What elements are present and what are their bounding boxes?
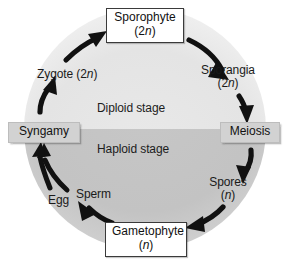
stage-label-haploid-text: Haploid stage: [97, 142, 169, 156]
life-cycle-diagram: Sporophyte (2n) Sporangia (2n) Meiosis S…: [0, 0, 291, 265]
node-zygote-ploidy: (2n): [73, 67, 97, 81]
node-meiosis[interactable]: Meiosis: [220, 122, 280, 143]
node-sperm-name: Sperm: [76, 187, 111, 201]
node-egg: Egg: [48, 194, 69, 207]
stage-label-diploid: Diploid stage: [97, 102, 165, 115]
node-gametophyte-name: Gametophyte: [112, 225, 180, 239]
node-sporangia-name: Sporangia: [195, 64, 261, 77]
node-meiosis-name: Meiosis: [230, 124, 271, 138]
stage-label-haploid: Haploid stage: [97, 143, 169, 156]
node-sporophyte-name: Sporophyte: [113, 11, 177, 25]
node-spores: Spores (n): [203, 176, 253, 203]
node-syngamy[interactable]: Syngamy: [8, 122, 80, 143]
node-sporangia: Sporangia (2n): [195, 64, 261, 91]
node-sporophyte-ploidy: (2n): [113, 25, 177, 39]
stage-label-diploid-text: Diploid stage: [97, 101, 165, 115]
node-gametophyte-ploidy: (n): [112, 239, 180, 253]
node-syngamy-name: Syngamy: [19, 124, 69, 138]
node-spores-ploidy: (n): [203, 189, 253, 202]
node-sporophyte[interactable]: Sporophyte (2n): [106, 8, 184, 43]
node-zygote: Zygote (2n): [37, 68, 97, 81]
node-spores-name: Spores: [203, 176, 253, 189]
node-gametophyte[interactable]: Gametophyte (n): [105, 222, 187, 257]
node-egg-name: Egg: [48, 193, 69, 207]
node-sporangia-ploidy: (2n): [195, 77, 261, 90]
node-zygote-name: Zygote: [37, 67, 73, 81]
node-sperm: Sperm: [76, 188, 111, 201]
